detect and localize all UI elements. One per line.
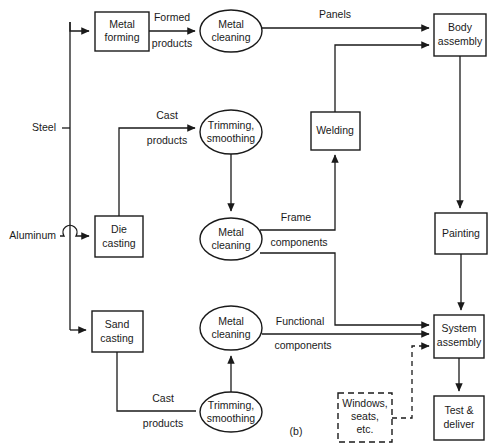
- node-metal-cleaning-mid-label-1: Metal: [218, 226, 244, 238]
- edge-welding-to-body-assembly: [335, 45, 429, 112]
- edge-windows-seats-to-system-assembly: [392, 346, 429, 418]
- node-sand-casting-label-2: casting: [100, 332, 133, 344]
- input-label-aluminum: Aluminum: [9, 229, 56, 241]
- node-sand-casting-label-1: Sand: [105, 318, 130, 330]
- flowchart-figure: Steel Aluminum Metal forming Formed prod…: [0, 0, 492, 447]
- node-metal-forming-label-2: forming: [104, 31, 139, 43]
- edge-label-frame-1: Frame: [281, 211, 311, 223]
- edge-label-functional-1: Functional: [276, 315, 324, 327]
- node-test-deliver-label-1: Test &: [444, 404, 473, 416]
- edge-label-frame-2: components: [270, 236, 327, 248]
- edge-label-cast-bot-2: products: [143, 417, 183, 429]
- node-test-deliver-label-2: deliver: [444, 418, 475, 430]
- node-metal-cleaning-mid-label-2: cleaning: [211, 239, 250, 251]
- flowchart-canvas: Steel Aluminum Metal forming Formed prod…: [0, 0, 492, 447]
- input-label-steel: Steel: [32, 121, 56, 133]
- node-metal-cleaning-top-label-1: Metal: [218, 18, 244, 30]
- edge-label-functional-2: components: [274, 339, 331, 351]
- node-system-assembly-label-2: assembly: [437, 336, 482, 348]
- node-welding-label: Welding: [316, 124, 354, 136]
- node-metal-cleaning-bot-label-1: Metal: [218, 315, 244, 327]
- node-trimming-top-label-2: smoothing: [207, 132, 256, 144]
- node-body-assembly-label-2: assembly: [438, 35, 483, 47]
- node-windows-seats-label-1: Windows,: [342, 397, 388, 409]
- node-system-assembly-label-1: System: [441, 322, 476, 334]
- node-painting-label: Painting: [442, 227, 480, 239]
- node-metal-cleaning-top-label-2: cleaning: [211, 31, 250, 43]
- node-trimming-bot-label-2: smoothing: [207, 412, 256, 424]
- figure-caption: (b): [290, 425, 303, 437]
- edge-trunk-to-metal-forming: [70, 22, 89, 31]
- edge-label-formed-1: Formed: [154, 11, 190, 23]
- edge-aluminum-to-die-casting: [60, 225, 89, 236]
- node-windows-seats-label-2: seats,: [351, 410, 379, 422]
- node-die-casting-label-1: Die: [111, 223, 127, 235]
- edge-label-formed-2: products: [152, 37, 192, 49]
- node-die-casting-label-2: casting: [102, 237, 135, 249]
- node-windows-seats-label-3: etc.: [357, 423, 374, 435]
- node-metal-cleaning-bot-label-2: cleaning: [211, 328, 250, 340]
- edge-label-cast-top-2: products: [147, 134, 187, 146]
- edge-label-cast-top-1: Cast: [156, 109, 178, 121]
- node-trimming-bot-label-1: Trimming,: [208, 399, 254, 411]
- edge-label-panels: Panels: [319, 8, 351, 20]
- node-trimming-top-label-1: Trimming,: [208, 119, 254, 131]
- node-body-assembly-label-1: Body: [448, 21, 473, 33]
- node-metal-forming-label-1: Metal: [109, 18, 135, 30]
- edge-label-cast-bot-1: Cast: [152, 392, 174, 404]
